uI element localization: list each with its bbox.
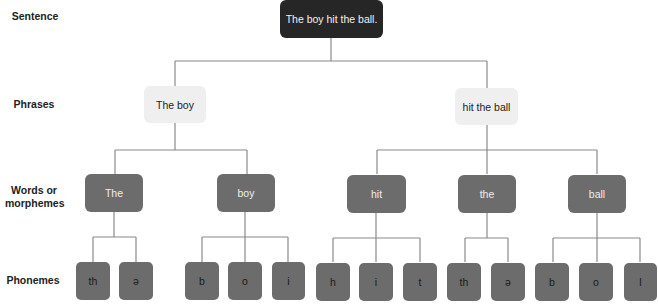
phoneme-node: b [185,262,219,300]
word-node-the-2: the [458,175,516,213]
word-node-the: The [85,174,143,212]
tree-connectors [0,0,659,305]
phoneme-text: t [419,276,422,288]
phoneme-node: th [76,262,110,300]
phoneme-text: l [639,276,641,288]
phoneme-node: b [535,263,569,301]
phoneme-text: o [242,275,248,287]
phoneme-text: b [199,275,205,287]
phoneme-text: th [89,275,98,287]
word-node-hit: hit [347,175,406,213]
phoneme-text: ə [505,276,511,288]
word-node-ball: ball [568,175,626,213]
phoneme-text: h [330,276,336,288]
phoneme-text: th [460,276,469,288]
phoneme-node: ə [491,263,525,301]
phoneme-node: o [228,262,262,300]
phoneme-node: l [624,263,657,301]
row-label-phrases: Phrases [12,98,56,111]
phoneme-node: h [316,263,350,301]
phrase-node-the-boy: The boy [144,86,206,123]
row-label-phonemes: Phonemes [6,274,60,287]
phoneme-node: i [359,263,393,301]
phoneme-text: i [375,276,377,288]
phrase-text: The boy [156,99,194,111]
phoneme-text: i [287,275,289,287]
row-label-words-line2: morphemes [5,197,63,210]
word-text: hit [371,188,382,200]
phoneme-text: o [593,276,599,288]
word-node-boy: boy [217,174,275,212]
row-label-words-line1: Words or [5,184,63,197]
phoneme-text: b [549,276,555,288]
phoneme-node: o [579,263,613,301]
sentence-node: The boy hit the ball. [280,0,383,38]
phrase-text: hit the ball [463,101,511,113]
phoneme-node: th [447,263,481,301]
row-label-words: Words or morphemes [5,184,63,210]
phoneme-node: ə [119,262,153,300]
phrase-node-hit-the-ball: hit the ball [455,88,518,125]
sentence-text: The boy hit the ball. [286,13,378,25]
word-text: boy [238,187,255,199]
word-text: ball [589,188,605,200]
row-label-sentence: Sentence [10,10,60,23]
word-text: the [480,188,495,200]
phoneme-node: i [272,262,305,300]
word-text: The [105,187,123,199]
phoneme-node: t [403,263,437,301]
phoneme-text: ə [133,275,139,287]
